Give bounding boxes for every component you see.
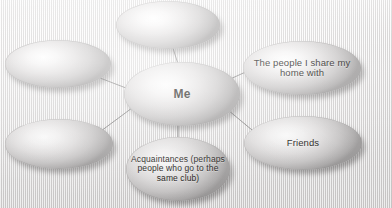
connector-center-left [100, 78, 126, 88]
node-friends-label: Friends [281, 138, 325, 148]
node-empty-bottom-left[interactable] [5, 119, 113, 169]
connector-center-bottomleft [101, 108, 132, 131]
diagram-canvas: Me The people I share my home with Frien… [0, 0, 392, 208]
node-acquaintances[interactable]: Acquaintances (perhaps people who go to … [126, 137, 230, 201]
node-empty-left[interactable] [5, 40, 111, 88]
node-home-sharers[interactable]: The people I share my home with [243, 41, 361, 95]
node-empty-top[interactable] [116, 1, 220, 49]
node-me[interactable]: Me [124, 62, 240, 126]
node-friends[interactable]: Friends [244, 116, 362, 170]
node-me-label: Me [168, 88, 197, 101]
connector-center-friends [228, 110, 252, 130]
node-acquaintances-label: Acquaintances (perhaps people who go to … [126, 155, 230, 184]
node-home-sharers-label: The people I share my home with [243, 58, 361, 79]
